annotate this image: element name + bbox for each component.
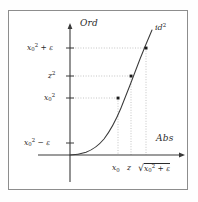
point-sqrt [145,47,148,50]
y-tick-label-x0sq-minus-eps: x02 − ε [24,138,50,148]
x-axis-label: Abs [156,134,173,143]
y-tick-label-x0sq-plus-eps: x02 + ε [27,43,53,53]
radical-sign: √ [138,163,144,173]
y-tick-label-z-squared: z2 [48,71,55,79]
curve-points [117,47,148,100]
parabola-curve [70,30,152,155]
curve-label: id2 [155,23,166,32]
figure-container: Ord Abs id2 x02 + ε z2 x02 x02 − ε x0 z … [0,0,198,202]
y-axis-label: Ord [80,19,98,28]
point-x0 [117,97,120,100]
x-tick-label-z: z [127,164,131,172]
point-z [130,75,133,78]
x-tick-label-sqrt-x0sq-plus-eps: √x02 + ε [138,163,170,174]
curve-label-text: id [155,23,163,32]
y-tick-label-x0-squared: x02 [44,93,55,103]
x-axis-arrowhead [179,153,185,158]
curve-label-exponent: 2 [163,22,166,28]
x-tick-label-x0: x0 [112,164,120,173]
y-axis-arrowhead [68,23,73,29]
vertical-guides [118,48,146,155]
axes [38,23,185,182]
